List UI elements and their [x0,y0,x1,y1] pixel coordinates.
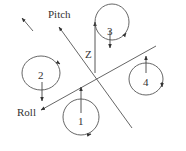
rotor-3: 3 [95,4,129,48]
rotor-4-label: 4 [143,76,149,88]
rotor-1-label: 1 [78,115,84,127]
direction-arrow-icon [22,18,33,31]
rotor-4: 4 [129,56,163,95]
rotor-1: 1 [63,87,99,135]
rotor-2-label: 2 [38,69,44,81]
pitch-label: Pitch [48,8,71,20]
roll-label: Roll [17,106,36,118]
quadrotor-diagram: Pitch Roll Z 3 2 1 4 [0,0,186,151]
pitch-axis: Pitch [48,8,132,128]
z-label: Z [85,48,92,60]
rotor-3-label: 3 [107,25,113,37]
rotor-2: 2 [22,56,60,101]
